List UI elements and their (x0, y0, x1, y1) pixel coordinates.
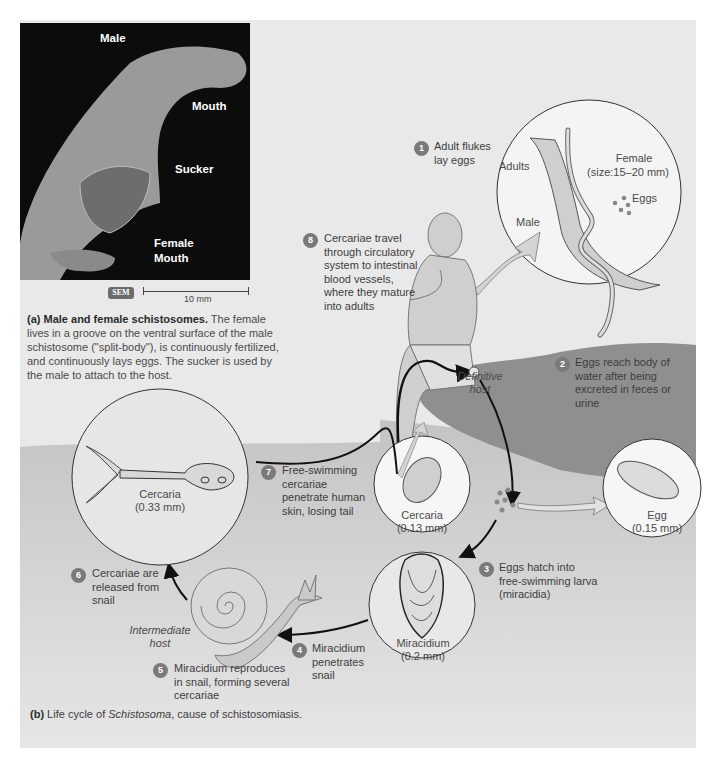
scale-bar-tick-right (248, 287, 249, 295)
label-female-size: (size:15–20 mm) (578, 166, 678, 179)
sem-micrograph: Male Mouth Sucker Female Mouth (20, 23, 250, 280)
cercaria-small-name: Cercaria (387, 509, 457, 522)
definitive-host-label: Definitive host (450, 370, 510, 396)
intermediate-host-label: Intermediate host (128, 624, 192, 650)
step-7-badge: 7 (261, 465, 276, 480)
step-7-text: Free-swimming cercariae penetrate human … (282, 464, 368, 518)
cercaria-large-name: Cercaria (120, 488, 200, 501)
label-female: Female (154, 237, 194, 249)
step-6-badge: 6 (71, 568, 86, 583)
scale-bar (143, 291, 249, 292)
caption-b-pre: Life cycle of (47, 708, 108, 720)
miracidium-name: Miracidium (385, 637, 461, 650)
egg-name: Egg (622, 509, 692, 522)
miracidium-size: (0.2 mm) (385, 650, 461, 663)
label-male: Male (100, 32, 126, 44)
caption-b-post: , cause of schistosomiasis. (171, 708, 302, 720)
step-2-badge: 2 (555, 357, 570, 372)
label-male-adult: Male (516, 216, 540, 229)
step-3-badge: 3 (479, 562, 494, 577)
step-3-text: Eggs hatch into free-swimming larva (mir… (499, 561, 599, 602)
cercaria-small-size: (0.13 mm) (387, 522, 457, 535)
step-8-text: Cercariae travel through circulatory sys… (324, 232, 420, 313)
scale-bar-tick-left (143, 287, 144, 295)
egg-size: (0.15 mm) (622, 522, 692, 535)
caption-panel-a: (a) Male and female schistosomes. The fe… (27, 312, 287, 382)
label-eggs: Eggs (632, 192, 657, 205)
step-4-badge: 4 (292, 643, 307, 658)
caption-panel-b: (b) Life cycle of Schistosoma, cause of … (30, 708, 302, 720)
step-6-text: Cercariae are released from snail (92, 567, 162, 608)
step-5-badge: 5 (153, 663, 168, 678)
caption-a-title: (a) Male and female schistosomes. (27, 313, 208, 325)
sem-badge: SEM (108, 287, 134, 299)
label-sucker: Sucker (175, 163, 213, 175)
label-adults: Adults (499, 160, 530, 173)
label-female: Female (594, 152, 674, 165)
step-1-text: Adult flukes lay eggs (434, 140, 494, 167)
step-5-text: Miracidium reproduces in snail, forming … (174, 662, 294, 703)
caption-b-label: (b) (30, 708, 44, 720)
step-4-text: Miracidium penetrates snail (312, 642, 372, 683)
step-8-badge: 8 (303, 233, 318, 248)
label-mouth-female: Mouth (154, 252, 188, 264)
step-2-text: Eggs reach body of water after being exc… (575, 356, 675, 410)
caption-b-genus: Schistosoma (108, 708, 171, 720)
schistosoma-figure: Male Mouth Sucker Female Mouth SEM 10 mm… (0, 0, 717, 769)
scale-bar-label: 10 mm (184, 294, 212, 304)
step-1-badge: 1 (414, 141, 429, 156)
cercaria-large-size: (0.33 mm) (120, 501, 200, 514)
label-mouth-male: Mouth (192, 100, 226, 112)
